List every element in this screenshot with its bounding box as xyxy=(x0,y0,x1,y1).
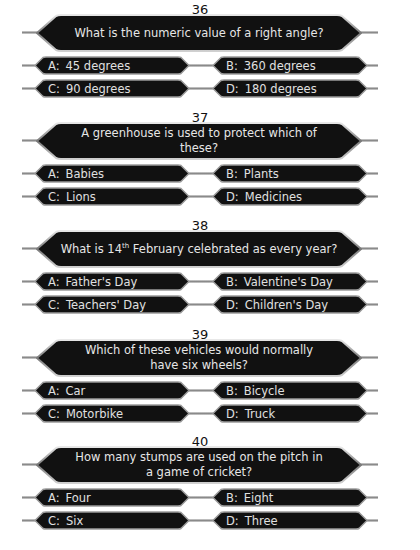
answer-text: B:Eight xyxy=(226,488,273,507)
question-box: What is the numeric value of a right ang… xyxy=(36,14,362,52)
answer-label: 45 degrees xyxy=(66,59,131,73)
question-box: What is 14th February celebrated as ever… xyxy=(36,230,362,268)
answer-letter: C: xyxy=(48,407,60,421)
answer-letter: D: xyxy=(226,82,239,96)
answer-letter: C: xyxy=(48,190,60,204)
question-text: What is the numeric value of a right ang… xyxy=(36,14,362,52)
answer-text: D:Medicines xyxy=(226,187,302,206)
answer-c[interactable]: C:Lions xyxy=(34,187,190,206)
answer-text: A:Babies xyxy=(48,164,104,183)
question-text: A greenhouse is used to protect which of… xyxy=(36,122,362,160)
answer-text: D:Truck xyxy=(226,404,275,423)
answer-d[interactable]: D:Truck xyxy=(212,404,368,423)
answer-c[interactable]: C:Motorbike xyxy=(34,404,190,423)
answer-label: Car xyxy=(66,384,86,398)
answer-letter: A: xyxy=(48,384,60,398)
answer-letter: B: xyxy=(226,167,238,181)
answer-text: B:Plants xyxy=(226,164,279,183)
answer-a[interactable]: A:45 degrees xyxy=(34,56,190,75)
question-text-part: February celebrated as every year? xyxy=(129,242,337,256)
answer-text: A:Four xyxy=(48,488,91,507)
question-block: 39 Which of these vehicles would normall… xyxy=(0,325,420,433)
answer-c[interactable]: C:Six xyxy=(34,511,190,530)
question-block: 36 What is the numeric value of a right … xyxy=(0,0,420,108)
answer-text: C:Six xyxy=(48,511,83,530)
answer-label: Six xyxy=(66,514,83,528)
answer-text: D:Three xyxy=(226,511,278,530)
answer-text: A:45 degrees xyxy=(48,56,130,75)
answer-letter: B: xyxy=(226,384,238,398)
answer-text: C:Lions xyxy=(48,187,96,206)
answer-text: C:Teachers' Day xyxy=(48,295,146,314)
answer-b[interactable]: B:Plants xyxy=(212,164,368,183)
answer-text: A:Car xyxy=(48,381,85,400)
answer-letter: D: xyxy=(226,514,239,528)
answer-letter: A: xyxy=(48,491,60,505)
answer-letter: D: xyxy=(226,298,239,312)
answer-b[interactable]: B:360 degrees xyxy=(212,56,368,75)
answer-letter: B: xyxy=(226,491,238,505)
answer-text: C:90 degrees xyxy=(48,79,131,98)
answer-text: B:Bicycle xyxy=(226,381,285,400)
question-text-part: What is 14 xyxy=(61,242,122,256)
answer-letter: B: xyxy=(226,59,238,73)
answer-label: Eight xyxy=(244,491,274,505)
answer-letter: C: xyxy=(48,82,60,96)
answer-label: Truck xyxy=(245,407,275,421)
answer-b[interactable]: B:Valentine's Day xyxy=(212,272,368,291)
answer-letter: C: xyxy=(48,298,60,312)
answer-label: 90 degrees xyxy=(66,82,131,96)
answer-letter: D: xyxy=(226,190,239,204)
question-text: How many stumps are used on the pitch in… xyxy=(36,446,362,484)
answer-c[interactable]: C:90 degrees xyxy=(34,79,190,98)
question-box: How many stumps are used on the pitch in… xyxy=(36,446,362,484)
answer-letter: A: xyxy=(48,59,60,73)
answer-letter: D: xyxy=(226,407,239,421)
answer-label: Babies xyxy=(66,167,105,181)
answer-label: Children's Day xyxy=(245,298,328,312)
answer-text: C:Motorbike xyxy=(48,404,123,423)
question-text: Which of these vehicles would normally h… xyxy=(36,339,362,377)
answer-label: Three xyxy=(245,514,278,528)
answer-text: B:360 degrees xyxy=(226,56,316,75)
answer-text: D:Children's Day xyxy=(226,295,328,314)
answer-b[interactable]: B:Bicycle xyxy=(212,381,368,400)
answer-c[interactable]: C:Teachers' Day xyxy=(34,295,190,314)
answer-label: Bicycle xyxy=(244,384,285,398)
question-block: 40 How many stumps are used on the pitch… xyxy=(0,432,420,540)
answer-label: Plants xyxy=(244,167,279,181)
answer-d[interactable]: D:Three xyxy=(212,511,368,530)
answer-text: D:180 degrees xyxy=(226,79,317,98)
answer-text: A:Father's Day xyxy=(48,272,137,291)
answer-letter: B: xyxy=(226,275,238,289)
answer-label: Father's Day xyxy=(66,275,138,289)
answer-letter: A: xyxy=(48,167,60,181)
answer-a[interactable]: A:Four xyxy=(34,488,190,507)
answer-d[interactable]: D:180 degrees xyxy=(212,79,368,98)
answer-label: 360 degrees xyxy=(244,59,316,73)
answer-label: Medicines xyxy=(245,190,302,204)
answer-letter: C: xyxy=(48,514,60,528)
answer-a[interactable]: A:Car xyxy=(34,381,190,400)
answer-label: Lions xyxy=(66,190,96,204)
answer-label: Motorbike xyxy=(66,407,123,421)
question-block: 37 A greenhouse is used to protect which… xyxy=(0,108,420,216)
answer-label: 180 degrees xyxy=(245,82,317,96)
answer-label: Teachers' Day xyxy=(66,298,146,312)
answer-d[interactable]: D:Medicines xyxy=(212,187,368,206)
answer-text: B:Valentine's Day xyxy=(226,272,333,291)
question-box: A greenhouse is used to protect which of… xyxy=(36,122,362,160)
question-text: What is 14th February celebrated as ever… xyxy=(36,230,362,268)
answer-label: Four xyxy=(66,491,91,505)
answer-label: Valentine's Day xyxy=(244,275,333,289)
answer-a[interactable]: A:Babies xyxy=(34,164,190,183)
answer-letter: A: xyxy=(48,275,60,289)
answer-a[interactable]: A:Father's Day xyxy=(34,272,190,291)
question-box: Which of these vehicles would normally h… xyxy=(36,339,362,377)
answer-b[interactable]: B:Eight xyxy=(212,488,368,507)
question-block: 38 What is 14th February celebrated as e… xyxy=(0,216,420,324)
answer-d[interactable]: D:Children's Day xyxy=(212,295,368,314)
